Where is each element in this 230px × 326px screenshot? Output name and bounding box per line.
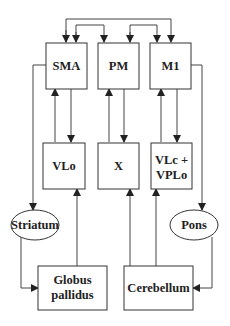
edge-sma-m1 [66,19,171,42]
node-sma: SMA [46,43,87,89]
node-cerebellum: Cerebellum [124,266,193,310]
diagram-canvas: SMA PM M1 VLo X VLc + VPLo Striatum Pons… [0,0,230,326]
edge-sma-pm [76,25,104,42]
node-gp-label-line1: Globus [53,273,91,287]
edge-pons-cerebellum [193,237,212,288]
node-pons: Pons [170,210,218,240]
node-vlc-label-line2: VPLo [156,168,187,182]
motor-circuit-diagram: SMA PM M1 VLo X VLc + VPLo Striatum Pons… [0,0,230,326]
node-x-label: X [114,159,123,173]
node-striatum: Striatum [11,210,60,240]
node-vlo: VLo [43,143,85,189]
node-m1: M1 [150,43,191,89]
node-vlc-vplo: VLc + VPLo [151,143,192,189]
node-vlc-label-line1: VLc + [155,153,188,167]
node-pons-label: Pons [181,218,207,232]
node-gp-label-line2: pallidus [51,288,94,302]
node-pm-label: PM [109,59,129,73]
node-pm: PM [98,43,139,89]
node-globus-pallidus: Globus pallidus [38,266,107,310]
node-cerebellum-label: Cerebellum [127,281,190,295]
node-m1-label: M1 [161,59,179,73]
node-sma-label: SMA [53,59,81,73]
node-striatum-label: Striatum [11,218,60,232]
edge-m1-pons [191,65,202,210]
edge-pm-m1 [130,25,157,42]
node-vlo-label: VLo [52,159,76,173]
node-x: X [98,143,139,189]
edge-striatum-gp [21,237,38,288]
